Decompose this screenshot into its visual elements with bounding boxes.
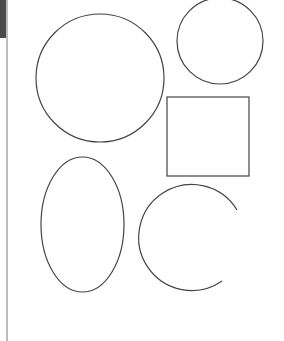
shapes-drawing — [0, 0, 284, 341]
square — [167, 97, 249, 176]
drawing-canvas — [0, 0, 284, 341]
large-circle — [36, 14, 164, 142]
ellipse — [41, 157, 124, 292]
small-circle — [177, 0, 263, 84]
open-arc — [139, 185, 237, 291]
